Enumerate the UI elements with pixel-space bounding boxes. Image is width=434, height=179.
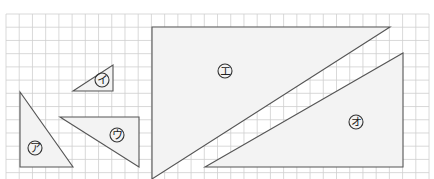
label-text-i: イ — [97, 74, 108, 87]
grid-figure: ア イ ウ エ オ — [0, 0, 434, 179]
label-text-a: ア — [30, 142, 41, 155]
label-text-e: エ — [220, 65, 231, 78]
label-text-o: オ — [351, 116, 362, 129]
label-u: ウ — [110, 128, 124, 142]
label-e: エ — [218, 64, 232, 78]
label-text-u: ウ — [112, 129, 123, 142]
label-o: オ — [349, 115, 363, 129]
label-a: ア — [28, 141, 42, 155]
label-i: イ — [95, 73, 109, 87]
shape-a — [20, 92, 73, 167]
